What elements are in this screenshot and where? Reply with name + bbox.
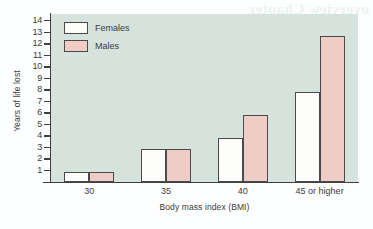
- legend: FemalesMales: [64, 20, 130, 56]
- y-axis-tick: [44, 158, 51, 159]
- x-axis-tick-label: 45 or higher: [281, 186, 358, 196]
- x-axis-tick-label: 30: [51, 186, 128, 196]
- legend-item: Males: [64, 38, 130, 53]
- y-axis-tick: [44, 32, 51, 33]
- y-axis-tick: [44, 170, 51, 171]
- bar-females-3: [295, 92, 320, 182]
- y-axis-tick: [44, 112, 51, 113]
- y-axis-tick-label: 14: [32, 16, 42, 25]
- y-axis-tick-label: 2: [37, 154, 42, 163]
- y-axis-tick-label: 7: [37, 97, 42, 106]
- bar-males-2: [243, 115, 268, 182]
- y-axis-tick: [44, 135, 51, 136]
- y-axis-tick-label: 4: [37, 131, 42, 140]
- y-axis-tick-label: 5: [37, 120, 42, 129]
- y-axis-tick: [44, 124, 51, 125]
- legend-swatch-females: [64, 22, 88, 34]
- legend-swatch-males: [64, 40, 88, 52]
- bar-males-1: [166, 149, 191, 182]
- y-axis-tick-label: 12: [32, 39, 42, 48]
- y-axis-tick: [44, 78, 51, 79]
- y-axis-tick-label: 11: [33, 51, 42, 60]
- bar-females-2: [218, 138, 243, 182]
- bar-males-0: [89, 172, 114, 182]
- y-axis-tick: [44, 89, 51, 90]
- y-axis-tick-label: 8: [37, 85, 42, 94]
- bar-males-3: [320, 36, 345, 182]
- x-axis-tick-label: 35: [128, 186, 205, 196]
- y-axis-tick: [44, 66, 51, 67]
- x-axis-tick-label: 40: [205, 186, 282, 196]
- legend-label: Males: [95, 41, 119, 51]
- bar-chart-figure: 1413121110987654321 Years of life lost 3…: [0, 0, 373, 229]
- x-axis-title: Body mass index (BMI): [51, 202, 358, 212]
- y-axis-tick: [44, 101, 51, 102]
- y-axis-tick: [44, 147, 51, 148]
- y-axis-tick: [44, 20, 51, 21]
- y-axis-tick-label: 6: [37, 108, 42, 117]
- legend-item: Females: [64, 20, 130, 35]
- y-axis-tick-label: 13: [32, 28, 42, 37]
- legend-label: Females: [95, 23, 130, 33]
- y-axis-tick-label: 10: [32, 62, 42, 71]
- y-axis-tick: [44, 43, 51, 44]
- bar-females-1: [141, 149, 166, 182]
- y-axis-tick: [44, 55, 51, 56]
- y-axis-tick-label: 9: [37, 74, 42, 83]
- x-axis-line: [43, 182, 359, 183]
- bar-females-0: [64, 172, 89, 182]
- y-axis-tick-label: 3: [37, 143, 42, 152]
- y-axis-title: Years of life lost: [12, 51, 22, 151]
- y-axis-tick-label: 1: [37, 166, 42, 175]
